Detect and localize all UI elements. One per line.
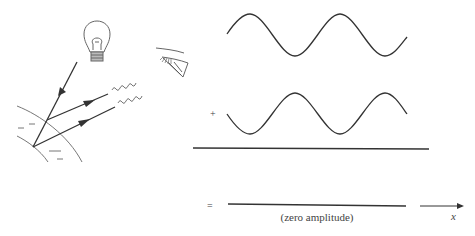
arrowhead-icon: [83, 100, 95, 107]
wiggle-icon: [112, 83, 136, 90]
superposition-diagram: + = (zero amplitude) x: [0, 0, 475, 236]
sum-rule: [193, 148, 429, 149]
arrowhead-icon: [58, 87, 66, 96]
plus-sign: +: [210, 108, 216, 119]
reflected-ray-1: [47, 94, 108, 120]
rays: [33, 62, 115, 147]
equals-sign: =: [207, 200, 213, 211]
x-axis-label: x: [450, 210, 456, 222]
wave-1: [227, 14, 407, 56]
arrowhead-icon: [457, 203, 464, 209]
light-bulb-icon: [84, 21, 110, 61]
zero-amplitude-label: (zero amplitude): [281, 211, 354, 224]
eyebrow: [156, 48, 184, 53]
arrowhead-icon: [78, 119, 90, 127]
wave-symbols: [112, 83, 142, 103]
wiggle-icon: [118, 96, 142, 103]
reflected-ray-2: [33, 107, 115, 147]
zero-amplitude-line: [228, 204, 406, 206]
wave-2: [227, 93, 407, 134]
eye-icon: [156, 48, 188, 77]
negative-charges: [18, 124, 63, 159]
inner-surface-curve: [17, 136, 48, 162]
